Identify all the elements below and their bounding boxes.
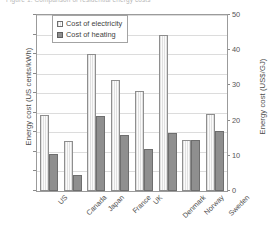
x-tick-label: UK — [151, 193, 164, 206]
x-tick-label: Denmark — [180, 193, 207, 220]
bar-heating — [191, 140, 200, 191]
x-tick-label: Japan — [106, 193, 126, 213]
legend-label-heating: Cost of heating — [66, 30, 116, 39]
bar-electricity — [87, 54, 96, 191]
y-tick-label-right: 50 — [232, 10, 256, 19]
bar-heating — [73, 175, 82, 191]
bar-electricity — [159, 35, 168, 191]
x-tick-label: US — [56, 193, 69, 206]
bar-electricity — [182, 140, 191, 191]
x-tick-label: Norway — [203, 193, 227, 217]
y-axis-right-title: Energy cost (US$/GJ) — [258, 22, 267, 172]
bar-electricity — [135, 91, 144, 191]
x-axis-category-labels: USCanadaJapanFranceUKDenmarkNorwaySweden — [36, 191, 226, 231]
x-tick-label: France — [131, 193, 153, 215]
y-tick-label-right: 40 — [232, 45, 256, 54]
top-caption-clipped: Figure 1. Comparison of residential ener… — [6, 0, 256, 4]
legend-item-electricity: Cost of electricity — [57, 19, 122, 28]
bar-heating — [49, 154, 58, 191]
bar-heating — [215, 131, 224, 191]
x-tick-label: Sweden — [227, 193, 252, 218]
bar-group — [135, 15, 153, 191]
bar-group — [182, 15, 200, 191]
chart-figure: Figure 1. Comparison of residential ener… — [0, 0, 269, 232]
legend-label-electricity: Cost of electricity — [66, 19, 122, 28]
legend-swatch-heating — [57, 32, 63, 38]
bar-heating — [120, 135, 129, 191]
bar-electricity — [111, 80, 120, 191]
y-axis-left-title: Energy cost (US cents/kWh) — [24, 22, 33, 172]
bar-group — [206, 15, 224, 191]
y-tick-label-right: 30 — [232, 80, 256, 89]
bar-heating — [96, 116, 105, 191]
bar-group — [159, 15, 177, 191]
bar-heating — [168, 133, 177, 191]
bar-electricity — [206, 114, 215, 191]
legend-swatch-electricity — [57, 21, 63, 27]
y-tick-label-right: 10 — [232, 151, 256, 160]
bar-electricity — [40, 115, 49, 191]
chart-legend: Cost of electricity Cost of heating — [52, 15, 128, 43]
bar-heating — [144, 149, 153, 191]
y-tick-label-right: 20 — [232, 116, 256, 125]
legend-item-heating: Cost of heating — [57, 30, 122, 39]
x-tick-label: Canada — [84, 193, 108, 217]
bar-electricity — [64, 141, 73, 191]
